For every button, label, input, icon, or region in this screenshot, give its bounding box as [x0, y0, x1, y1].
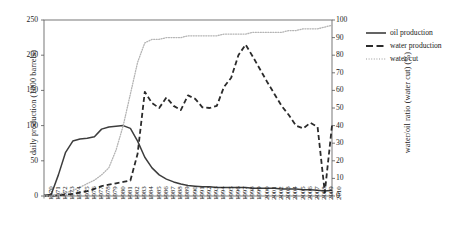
- legend-swatch-solid-icon: [366, 28, 386, 38]
- legend-label: water cut: [390, 54, 418, 64]
- legend-swatch-dotted-icon: [366, 54, 386, 64]
- legend-item-oil-production: oil production: [366, 26, 460, 39]
- legend-swatch-dashed-icon: [366, 41, 386, 51]
- x-axis-tick-label: 2010: [335, 186, 343, 200]
- chart-figure: daily production (1000 barrels) water/oi…: [0, 0, 460, 231]
- legend-label: water production: [390, 41, 442, 51]
- legend-label: oil production: [390, 28, 433, 38]
- legend: oil production water production water cu…: [366, 26, 460, 65]
- legend-item-water-cut: water cut: [366, 52, 460, 65]
- legend-item-water-production: water production: [366, 39, 460, 52]
